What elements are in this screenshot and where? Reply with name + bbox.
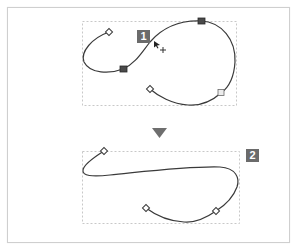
top-bounding-box (83, 22, 237, 106)
anchor-point[interactable] (212, 207, 219, 214)
anchor-point-start[interactable] (105, 28, 112, 35)
cursor-icon (154, 41, 166, 53)
anchor-point-selected[interactable] (198, 18, 205, 24)
top-path-curve (83, 21, 235, 105)
transition-arrow-icon (152, 128, 167, 138)
anchor-point-start[interactable] (100, 147, 107, 154)
step-1-badge: 1 (137, 30, 150, 43)
anchor-point[interactable] (218, 90, 224, 96)
anchor-point-selected[interactable] (120, 66, 127, 72)
step-2-badge: 2 (246, 149, 259, 162)
